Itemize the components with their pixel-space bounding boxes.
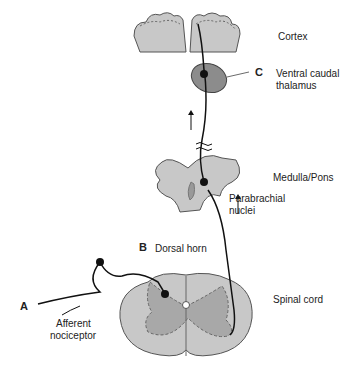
label-spinal-cord: Spinal cord	[273, 294, 323, 306]
label-thalamus-1: Ventral caudal	[276, 68, 339, 80]
marker-c: C	[255, 66, 263, 78]
label-afferent-1: Afferent	[56, 318, 91, 330]
label-cortex: Cortex	[278, 31, 307, 43]
marker-b: B	[139, 241, 147, 253]
pain-pathway-diagram	[0, 0, 353, 372]
cortex-shape	[134, 13, 240, 52]
arrow-icon	[62, 306, 80, 315]
label-dorsal-horn: Dorsal horn	[155, 243, 207, 255]
marker-a: A	[20, 300, 28, 312]
medulla-shape	[155, 156, 239, 212]
thalamus-shape	[187, 59, 230, 98]
label-parabrachial-1: Parabrachial	[229, 193, 285, 205]
label-afferent-2: nociceptor	[50, 330, 96, 342]
label-parabrachial-2: nuclei	[229, 205, 255, 217]
label-thalamus-2: thalamus	[276, 80, 317, 92]
label-medulla: Medulla/Pons	[273, 172, 334, 184]
spinal-cord-shape	[120, 273, 252, 356]
